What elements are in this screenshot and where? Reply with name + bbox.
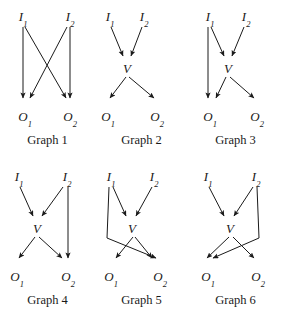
node-label-O1: O1 bbox=[101, 110, 115, 123]
edge-V-O2 bbox=[135, 237, 152, 258]
node-label-O1: O1 bbox=[201, 270, 215, 283]
graph-panel-3: I1 I2 V O1 O2 Graph 3 bbox=[188, 0, 283, 160]
edge-I1-V bbox=[209, 187, 224, 216]
node-label-I2: I2 bbox=[150, 170, 159, 183]
node-label-I2: I2 bbox=[63, 170, 72, 183]
graph-caption-5: Graph 5 bbox=[94, 294, 189, 307]
edge-V-O1 bbox=[19, 237, 35, 258]
graph-panel-5: I1 I2 V O1 O2 Graph 5 bbox=[94, 160, 189, 319]
graph-panel-6: I1 I2 V O1 O2 Graph 6 bbox=[188, 160, 283, 319]
graph-panel-2: I1 I2 V O1 O2 Graph 2 bbox=[94, 0, 189, 160]
node-label-I1: I1 bbox=[106, 10, 115, 23]
node-label-V: V bbox=[226, 222, 234, 235]
graph-caption-2: Graph 2 bbox=[94, 134, 189, 147]
edge-V-O2 bbox=[230, 77, 254, 98]
edge-I1-O2 bbox=[25, 27, 66, 98]
node-label-V: V bbox=[123, 62, 131, 75]
node-label-O1: O1 bbox=[10, 270, 24, 283]
graph-figure: I1 I2 O1 O2 Graph 1 bbox=[0, 0, 283, 319]
graph-caption-6: Graph 6 bbox=[188, 294, 283, 307]
edge-I2-V bbox=[232, 27, 244, 56]
edge-V-O1 bbox=[110, 77, 126, 98]
edge-I1-V bbox=[20, 187, 33, 216]
edge-I2-V bbox=[234, 187, 253, 216]
edge-V-O2 bbox=[39, 237, 62, 258]
node-label-I1: I1 bbox=[15, 170, 24, 183]
node-label-V: V bbox=[128, 222, 136, 235]
node-label-O1: O1 bbox=[104, 270, 118, 283]
node-label-I1: I1 bbox=[19, 10, 28, 23]
node-label-O2: O2 bbox=[250, 110, 264, 123]
node-label-I2: I2 bbox=[140, 10, 149, 23]
graph-caption-1: Graph 1 bbox=[0, 134, 95, 147]
node-label-I2: I2 bbox=[252, 170, 261, 183]
edge-I2-V bbox=[42, 187, 63, 216]
edge-I2-O1 bbox=[213, 187, 259, 258]
node-label-O2: O2 bbox=[153, 270, 167, 283]
node-label-V: V bbox=[224, 62, 232, 75]
edge-I1-V bbox=[211, 27, 224, 56]
edge-V-O1 bbox=[216, 77, 226, 98]
node-label-O2: O2 bbox=[251, 270, 265, 283]
node-label-I1: I1 bbox=[206, 10, 215, 23]
node-label-O1: O1 bbox=[18, 110, 32, 123]
graph-panel-1: I1 I2 O1 O2 Graph 1 bbox=[0, 0, 95, 160]
node-label-I2: I2 bbox=[242, 10, 251, 23]
node-label-I1: I1 bbox=[107, 170, 116, 183]
node-label-O2: O2 bbox=[61, 270, 75, 283]
node-label-O2: O2 bbox=[150, 110, 164, 123]
graph-1-diagram bbox=[0, 0, 95, 135]
edge-I1-V bbox=[111, 27, 123, 56]
node-label-I2: I2 bbox=[66, 10, 75, 23]
edge-I2-O1 bbox=[30, 27, 67, 98]
node-label-O2: O2 bbox=[63, 110, 77, 123]
edge-V-O2 bbox=[129, 77, 154, 98]
edge-I1-V bbox=[113, 187, 126, 216]
graph-caption-4: Graph 4 bbox=[0, 294, 95, 307]
edge-V-O1 bbox=[207, 237, 229, 258]
node-label-V: V bbox=[33, 222, 41, 235]
graph-caption-3: Graph 3 bbox=[188, 134, 283, 147]
graph-panel-4: I1 I2 V O1 O2 Graph 4 bbox=[0, 160, 95, 319]
edge-I2-V bbox=[131, 27, 142, 56]
node-label-O1: O1 bbox=[203, 110, 217, 123]
node-label-I1: I1 bbox=[204, 170, 213, 183]
edge-I2-V bbox=[136, 187, 152, 216]
